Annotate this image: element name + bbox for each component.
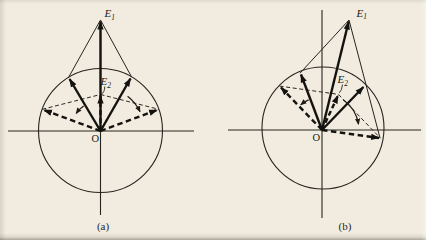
phasor-dashed-right — [101, 110, 158, 131]
resultant-e1-vector — [322, 22, 349, 131]
e1-label: E1 — [104, 7, 115, 22]
panel-a: E1 E2 O (a) — [8, 7, 194, 233]
e2-label-leader — [101, 87, 105, 95]
rotation-arc-right — [128, 96, 140, 111]
rotation-arc-right — [343, 100, 358, 125]
origin-label: O — [312, 132, 320, 143]
rotation-arc-left — [301, 100, 309, 105]
panel-b: E1 E2 O (b) — [228, 7, 421, 234]
phasor-dashed-left — [44, 110, 101, 131]
origin-label: O — [91, 133, 99, 144]
e2-label-leader — [339, 85, 342, 93]
panel-a-caption: (a) — [97, 220, 110, 233]
rotation-arc-left — [76, 106, 84, 113]
phasor-dashed-right — [322, 130, 379, 138]
e1-label: E1 — [356, 7, 367, 22]
textbook-figure: E1 E2 O (a) E1 E2 O (b) — [0, 0, 426, 240]
panel-b-caption: (b) — [339, 220, 352, 233]
construction-line-dashed-right — [101, 95, 159, 110]
phasor-figure-canvas: E1 E2 O (a) E1 E2 O (b) — [0, 0, 426, 240]
construction-line-solid-right — [349, 20, 380, 138]
construction-line-dashed-left — [42, 95, 100, 110]
phasor-dashed-left — [281, 88, 322, 131]
phasor-solid-left — [70, 79, 101, 131]
